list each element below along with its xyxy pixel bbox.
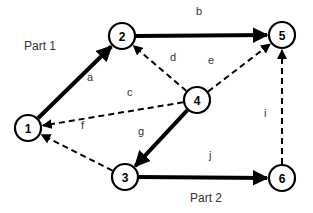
node-label: 4 (194, 94, 201, 108)
edge-label-b: b (196, 6, 202, 17)
edges-layer: 123456 (0, 0, 313, 213)
node-4: 4 (184, 87, 210, 113)
edge-label-e: e (208, 55, 214, 66)
edge-label-f: f (81, 120, 84, 131)
edge-d (133, 46, 186, 91)
node-3: 3 (112, 164, 138, 190)
node-1: 1 (15, 115, 41, 141)
edge-a (38, 46, 111, 118)
edge-b (136, 35, 267, 36)
part-label-part1: Part 1 (24, 40, 56, 52)
node-2: 2 (109, 23, 135, 49)
edge-label-a: a (87, 72, 93, 83)
node-label: 5 (279, 29, 286, 43)
edge-g (135, 110, 187, 166)
node-6: 6 (269, 165, 295, 191)
edge-label-i: i (264, 108, 266, 119)
part-label-part2: Part 2 (190, 192, 222, 204)
edge-label-c: c (127, 87, 133, 98)
node-label: 2 (119, 30, 126, 44)
edge-f (41, 135, 112, 171)
edge-label-d: d (170, 52, 176, 63)
node-label: 3 (122, 171, 129, 185)
node-label: 1 (25, 122, 32, 136)
edge-e (208, 44, 270, 91)
edge-label-j: j (209, 150, 211, 161)
node-5: 5 (269, 22, 295, 48)
edge-j (139, 177, 267, 178)
network-diagram: 123456 abcdefgijPart 1Part 2 (0, 0, 313, 213)
edge-c (43, 102, 183, 125)
edge-label-g: g (138, 126, 144, 137)
node-label: 6 (279, 172, 286, 186)
